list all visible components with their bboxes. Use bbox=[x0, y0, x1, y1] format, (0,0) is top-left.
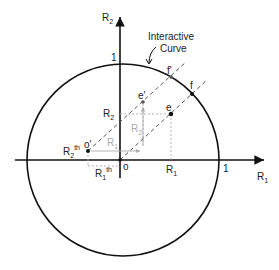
label-o-prime: o' bbox=[84, 139, 92, 150]
curve-label-line1: Interactive bbox=[148, 31, 195, 42]
point-o bbox=[118, 158, 122, 162]
y-tick-one: 1 bbox=[111, 52, 117, 63]
label-r2-value: R2 bbox=[103, 108, 114, 121]
x-tick-one: 1 bbox=[223, 163, 229, 174]
origin-label: o bbox=[123, 161, 129, 172]
curve-label-line2: Curve bbox=[160, 43, 187, 54]
r1-axis-label: R1 bbox=[257, 171, 268, 184]
r2-axis-label: R2 bbox=[102, 12, 113, 25]
label-f: f bbox=[190, 80, 193, 91]
label-e: e bbox=[166, 102, 172, 113]
gray-label-r1: R1 bbox=[107, 137, 118, 150]
interactive-curve-diagram: R2 R1 1 1 o Interactive Curve e e' f f' … bbox=[0, 0, 279, 270]
label-e-prime: e' bbox=[138, 90, 146, 101]
annotation-arrow bbox=[149, 47, 156, 63]
label-f-prime: f' bbox=[167, 65, 172, 76]
label-r1-threshold: R1th bbox=[95, 166, 112, 181]
gray-label-r2: R2 bbox=[131, 123, 142, 136]
label-r2-threshold: R2th bbox=[63, 144, 80, 159]
label-r1-value: R1 bbox=[166, 164, 177, 177]
point-f bbox=[190, 92, 194, 96]
